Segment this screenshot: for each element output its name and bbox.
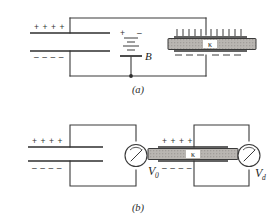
dielectric-slab-label: κ — [208, 40, 212, 49]
battery-label: B — [145, 50, 152, 62]
physics-figure: + + + + – – – – + – B — [0, 0, 277, 221]
battery-minus-sign: – — [137, 28, 142, 38]
right-circuit-top-signs: + + + + — [162, 136, 193, 146]
left-circuit-bottom-signs: – – – – — [32, 163, 62, 173]
right-circuit-bottom-signs: – – – – — [162, 163, 192, 173]
battery-plus-sign: + — [120, 28, 126, 38]
voltmeter-v0-subscript: 0 — [155, 171, 159, 180]
junction-dot — [129, 74, 133, 78]
left-circuit-top-signs: + + + + — [32, 136, 63, 146]
panel-a-caption: (a) — [132, 84, 145, 96]
voltmeter-vd-subscript: d — [262, 173, 266, 182]
top-plate-charge-signs: + + + + — [34, 22, 65, 32]
panel-b-caption: (b) — [132, 202, 145, 214]
right-circuit-slab-label: κ — [191, 150, 195, 159]
figure-root: + + + + – – – – + – B — [0, 0, 277, 221]
bottom-plate-charge-signs: – – – – — [34, 52, 64, 62]
